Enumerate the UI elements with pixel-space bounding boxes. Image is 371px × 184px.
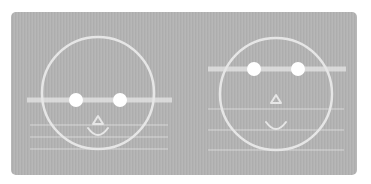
eye-line-bar <box>27 98 172 103</box>
left-face <box>27 37 172 149</box>
eye-dot <box>69 93 83 107</box>
mouth-arc <box>266 122 286 129</box>
nose-triangle <box>93 116 103 124</box>
head-outline <box>42 37 154 149</box>
eye-dot <box>291 62 305 76</box>
face-proportion-diagram <box>0 0 371 184</box>
right-face <box>208 38 346 150</box>
nose-triangle <box>271 95 281 103</box>
eye-dot <box>113 93 127 107</box>
mouth-arc <box>88 128 108 135</box>
eye-dot <box>247 62 261 76</box>
